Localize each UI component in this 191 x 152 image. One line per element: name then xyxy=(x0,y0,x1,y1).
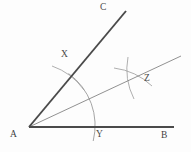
arc-XY-centered-at-A xyxy=(69,74,96,142)
point-label-Z: Z xyxy=(144,74,150,84)
arc-from-X xyxy=(52,66,84,90)
point-label-X: X xyxy=(61,50,68,60)
ray-AC xyxy=(29,11,126,127)
point-label-C: C xyxy=(100,3,107,13)
point-label-B: B xyxy=(161,131,168,141)
point-label-A: A xyxy=(10,130,17,140)
diagram-canvas: A B C X Y Z xyxy=(0,0,191,152)
point-label-Y: Y xyxy=(96,130,103,140)
ray-AZ-bisector xyxy=(29,56,181,127)
